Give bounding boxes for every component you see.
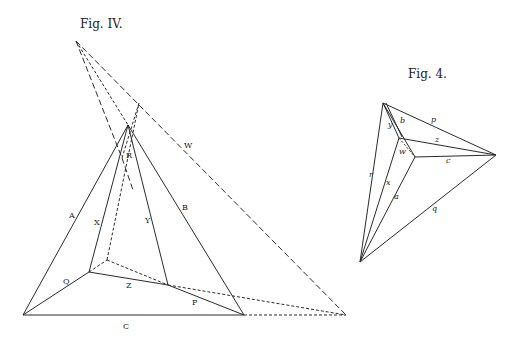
- fig-iv-title: Fig. IV.: [80, 17, 123, 31]
- label-p: p: [431, 115, 436, 124]
- diagram-canvas: Fig. IV. A B C P Q R W X Y Z Fig. 4. p q…: [0, 0, 521, 340]
- label-b: b: [400, 116, 405, 125]
- label-R: R: [126, 151, 133, 160]
- label-C: C: [123, 322, 129, 331]
- label-P: P: [192, 298, 198, 307]
- edge-P: [168, 285, 244, 315]
- edge-q: [360, 155, 496, 262]
- label-w: w: [399, 147, 406, 156]
- label-Z: Z: [126, 281, 132, 290]
- label-A: A: [68, 211, 75, 220]
- label-Q: Q: [63, 277, 70, 286]
- label-W: W: [184, 141, 193, 150]
- fig-iv: [23, 41, 346, 315]
- edge-c: [415, 155, 496, 157]
- label-a: a: [394, 192, 399, 201]
- fig-4-title: Fig. 4.: [408, 67, 447, 81]
- label-X: X: [94, 218, 100, 227]
- fig-4: [360, 103, 496, 262]
- label-x: x: [386, 178, 391, 187]
- edge-A: [23, 125, 128, 315]
- edge-X: [89, 125, 128, 272]
- label-z: z: [434, 135, 440, 144]
- edge-z: [399, 138, 496, 155]
- projection-lines: [76, 41, 346, 315]
- label-c: c: [446, 156, 451, 165]
- label-B: B: [182, 203, 188, 212]
- label-q: q: [432, 204, 437, 213]
- edge-r: [360, 103, 383, 262]
- edge-Q: [23, 272, 89, 315]
- edge-Y: [128, 125, 168, 285]
- label-y: y: [387, 120, 393, 129]
- label-Y: Y: [144, 216, 151, 225]
